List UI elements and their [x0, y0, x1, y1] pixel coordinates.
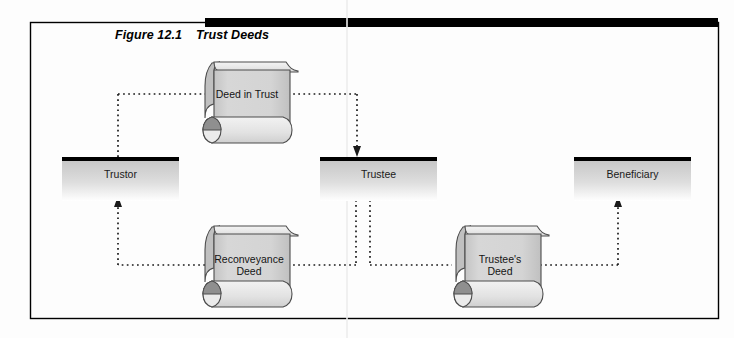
document-label-deed-in-trust: Deed in Trust	[209, 88, 285, 100]
document-label-trustees-deed-line2: Deed	[459, 265, 541, 277]
party-label-trustee: Trustee	[320, 168, 437, 180]
figure-container: Figure 12.1 Trust Deeds Trustor Trustee …	[0, 0, 734, 338]
figure-number: Figure 12.1	[115, 28, 182, 42]
figure-title: Trust Deeds	[196, 28, 269, 42]
party-label-trustor: Trustor	[62, 168, 179, 180]
document-label-reconveyance-deed-line1: Reconveyance	[205, 253, 293, 265]
document-label-reconveyance-deed-line2: Deed	[205, 265, 293, 277]
document-label-trustees-deed-line1: Trustee's	[459, 253, 541, 265]
party-label-beneficiary: Beneficiary	[574, 168, 691, 180]
document-scroll-deed-in-trust[interactable]	[203, 62, 298, 143]
